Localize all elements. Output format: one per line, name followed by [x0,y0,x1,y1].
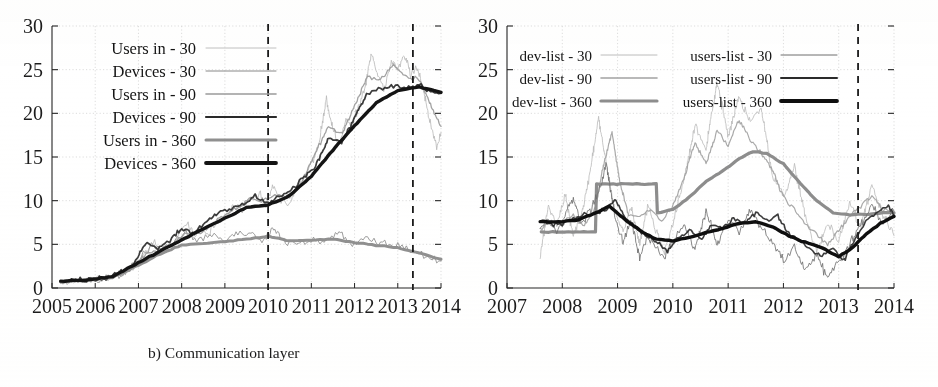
x-tick-label: 2010 [653,295,693,317]
y-axis-tick-labels: 051015202530 [23,15,43,299]
y-tick-label: 15 [478,146,498,168]
legend-label: Users in - 30 [111,39,196,58]
legend-label: dev-list - 360 [512,94,592,110]
caption-communication-layer: b) Communication layer [148,344,300,362]
x-tick-label: 2011 [709,295,748,317]
chart-legend: users-list - 30users-list - 90users-list… [683,48,837,110]
series-line [541,152,894,233]
legend-label: Devices - 360 [104,154,196,173]
x-tick-label: 2012 [763,295,803,317]
x-tick-label: 2009 [598,295,638,317]
y-tick-label: 10 [23,190,43,212]
y-axis-tick-labels: 051015202530 [478,15,498,299]
y-tick-label: 20 [23,102,43,124]
series-group [540,82,894,278]
panel-communication-layer: 0510152025302005200620072008200920102011… [0,0,469,387]
figure-row: 0510152025302005200620072008200920102011… [0,0,938,387]
legend-label: dev-list - 30 [520,48,593,64]
x-tick-label: 2014 [874,295,914,317]
x-tick-label: 2009 [205,295,245,317]
chart-legend: dev-list - 30dev-list - 90dev-list - 360 [512,48,657,110]
x-tick-label: 2007 [118,295,158,317]
y-tick-label: 30 [478,15,498,37]
communication-layer-chart: 0510152025302005200620072008200920102011… [0,0,469,340]
chart-legend: Users in - 30Devices - 30Users in - 90De… [103,39,276,173]
y-tick-label: 25 [478,59,498,81]
x-tick-label: 2008 [162,295,202,317]
legend-label: users-list - 30 [690,48,772,64]
x-tick-label: 2008 [542,295,582,317]
x-tick-label: 2006 [75,295,115,317]
legend-label: Users in - 360 [103,131,196,150]
x-tick-label: 2013 [378,295,418,317]
grid [507,26,894,288]
x-tick-label: 2012 [335,295,375,317]
y-tick-label: 15 [23,146,43,168]
x-tick-label: 2014 [421,295,461,317]
x-tick-label: 2011 [292,295,331,317]
mailing-lists-layer-chart: 0510152025302007200820092010201120122013… [469,0,938,340]
legend-label: users-list - 360 [683,94,772,110]
y-tick-label: 10 [478,190,498,212]
x-tick-label: 2010 [248,295,288,317]
legend-label: Users in - 90 [111,85,196,104]
y-tick-label: 20 [478,102,498,124]
x-tick-label: 2005 [32,295,72,317]
x-tick-label: 2007 [487,295,527,317]
legend-label: users-list - 90 [690,71,772,87]
y-tick-label: 5 [33,233,43,255]
x-tick-label: 2013 [819,295,859,317]
legend-label: Devices - 30 [113,62,196,81]
y-tick-label: 5 [488,233,498,255]
legend-label: dev-list - 90 [520,71,593,87]
panel-mailing-lists-layer: 0510152025302007200820092010201120122013… [469,0,938,387]
x-axis-tick-labels: 2005200620072008200920102011201220132014 [32,295,461,317]
legend-label: Devices - 90 [113,108,196,127]
x-axis-tick-labels: 20072008200920102011201220132014 [487,295,914,317]
y-tick-label: 30 [23,15,43,37]
series-line [540,162,894,277]
y-tick-label: 25 [23,59,43,81]
